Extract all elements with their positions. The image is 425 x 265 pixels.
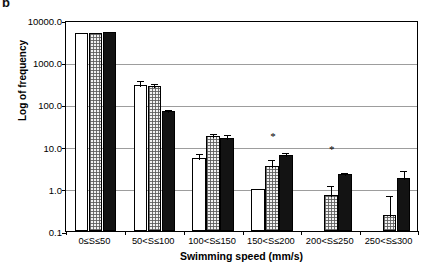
error-bar-stem	[404, 171, 405, 180]
error-bar-cap	[165, 110, 172, 111]
gridline	[66, 64, 417, 65]
x-category-label-3: 100<S≤150	[188, 236, 236, 246]
bar-black-1	[103, 32, 117, 231]
gridline	[66, 148, 417, 149]
x-tick-mark	[360, 231, 361, 235]
bar-black-6	[397, 178, 411, 231]
bar-white-1	[75, 33, 89, 231]
bar-white-4	[251, 189, 265, 231]
x-category-label-6: 250<S≤300	[365, 236, 413, 246]
error-bar-cap	[151, 84, 158, 85]
gridline	[66, 106, 417, 107]
bar-black-5	[338, 174, 352, 231]
y-tick-label: 1.0	[16, 184, 62, 195]
error-bar-cap	[224, 135, 231, 136]
panel-letter-label: b	[2, 0, 10, 10]
bar-stippled-5	[324, 195, 338, 231]
bar-stippled-4	[265, 166, 279, 231]
x-category-label-1: 0≤S≤50	[78, 236, 110, 246]
error-bar-cap	[400, 171, 407, 172]
x-tick-mark	[301, 231, 302, 235]
x-tick-mark	[125, 231, 126, 235]
x-tick-mark	[66, 231, 67, 235]
error-bar-cap	[196, 154, 203, 155]
y-tick-label: 10000.0	[16, 16, 62, 27]
y-tick-mark	[62, 106, 66, 107]
y-tick-mark	[62, 64, 66, 65]
x-category-label-4: 150<S≤200	[247, 236, 295, 246]
error-bar-cap	[210, 134, 217, 135]
bar-stippled-1	[89, 33, 103, 231]
y-tick-mark	[62, 148, 66, 149]
x-category-label-2: 50<S≤100	[132, 236, 175, 246]
x-tick-mark	[418, 231, 419, 235]
x-category-label-5: 200<S≤250	[306, 236, 354, 246]
error-bar-stem	[331, 186, 332, 196]
error-bar-cap	[386, 196, 393, 197]
x-axis-title: Swimming speed (mm/s)	[65, 250, 418, 262]
bar-stippled-6	[383, 215, 397, 231]
x-tick-mark	[184, 231, 185, 235]
error-bar-stem	[272, 160, 273, 168]
significance-asterisk: *	[270, 131, 276, 142]
plot-area: **	[65, 21, 418, 232]
y-tick-mark	[62, 22, 66, 23]
error-bar-cap	[137, 81, 144, 82]
y-tick-label: 100.0	[16, 100, 62, 111]
y-axis-tick-labels: 0.11.010.0100.01000.010000.0	[12, 0, 62, 265]
bar-white-3	[192, 158, 206, 231]
x-tick-mark	[243, 231, 244, 235]
bar-black-4	[279, 155, 293, 231]
bar-black-2	[162, 111, 176, 231]
error-bar-stem	[390, 196, 391, 217]
y-tick-label: 1000.0	[16, 58, 62, 69]
bar-black-3	[220, 138, 234, 231]
bar-white-2	[134, 85, 148, 231]
y-tick-label: 10.0	[16, 142, 62, 153]
significance-asterisk: *	[329, 143, 335, 154]
bar-stippled-2	[148, 86, 162, 231]
y-tick-label: 0.1	[16, 227, 62, 238]
error-bar-cap	[282, 153, 289, 154]
bar-stippled-3	[206, 136, 220, 231]
figure-panel-b: b Log of frequency 0.11.010.0100.01000.0…	[0, 0, 425, 265]
error-bar-cap	[341, 173, 348, 174]
x-axis-category-labels: 0≤S≤5050<S≤100100<S≤150150<S≤200200<S≤25…	[65, 236, 418, 250]
error-bar-cap	[268, 160, 275, 161]
y-tick-mark	[62, 190, 66, 191]
gridline	[66, 190, 417, 191]
error-bar-cap	[327, 186, 334, 187]
